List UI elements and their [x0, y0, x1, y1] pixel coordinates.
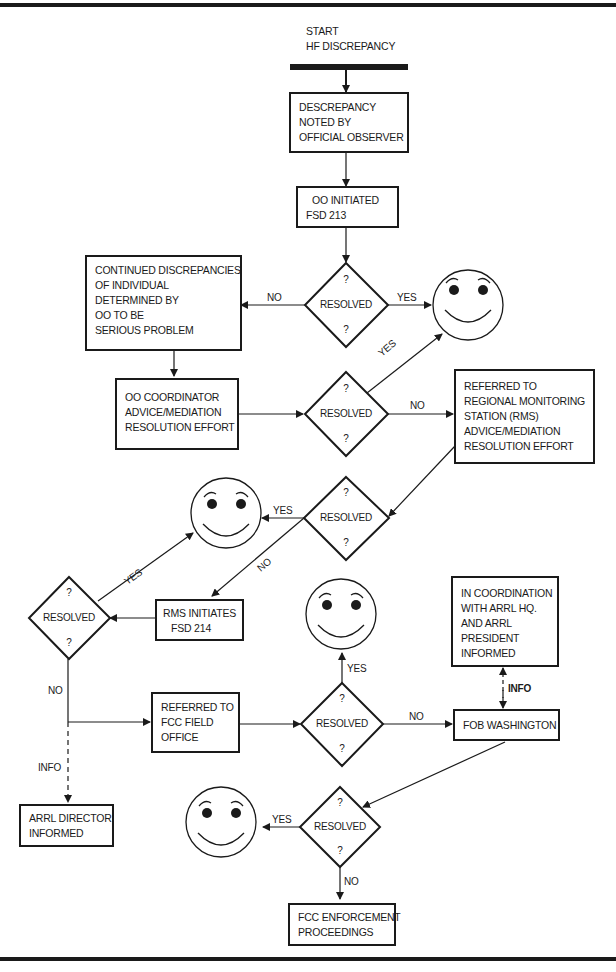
box-text: INFORMED	[461, 646, 549, 661]
decision-6-mark-top: ?	[300, 797, 380, 808]
box-text: REFERRED TO	[161, 700, 230, 715]
edge-label-yes: YES	[272, 814, 291, 825]
box-text: RESOLUTION EFFORT	[464, 439, 585, 454]
start-line-1: START	[306, 24, 395, 39]
box-text: WITH ARRL HQ.	[461, 601, 549, 616]
start-line-2: HF DISCREPANCY	[306, 39, 395, 54]
box-text: CONTINUED DISCREPANCIES	[95, 263, 232, 278]
box-oo-coordinator: OO COORDINATOR ADVICE/MEDIATION RESOLUTI…	[115, 378, 239, 450]
box-oo-initiated: OO INITIATED FSD 213	[296, 186, 399, 228]
box-text: OFFICIAL OBSERVER	[299, 130, 399, 145]
box-discrepancy-noted: DESCREPANCY NOTED BY OFFICIAL OBSERVER	[289, 92, 409, 153]
box-text: OO INITIATED	[306, 193, 389, 208]
box-text: REGIONAL MONITORING	[464, 394, 585, 409]
decision-1-label: RESOLVED	[306, 299, 386, 310]
decision-5-mark-top: ?	[302, 693, 382, 704]
box-text: NOTED BY	[299, 115, 399, 130]
box-text: FCC FIELD	[161, 715, 230, 730]
decision-4-label: RESOLVED	[29, 612, 109, 623]
edge-label-yes: YES	[273, 505, 292, 516]
box-text: SERIOUS PROBLEM	[95, 323, 232, 338]
edge-label-no: NO	[344, 876, 359, 887]
smiley-face-icon-1	[433, 270, 503, 340]
box-text: STATION (RMS)	[464, 409, 585, 424]
box-referred-rms: REFERRED TO REGIONAL MONITORING STATION …	[454, 369, 595, 464]
smiley-face-icon-3	[306, 579, 376, 649]
box-text: FOB WASHINGTON	[463, 718, 550, 733]
edge-label-info: INFO	[508, 683, 531, 694]
box-fcc-field-office: REFERRED TO FCC FIELD OFFICE	[151, 692, 240, 753]
smiley-face-icon-2	[191, 478, 261, 548]
decision-3-mark-top: ?	[306, 487, 386, 498]
box-text: OO TO BE	[95, 308, 232, 323]
box-text: REFERRED TO	[464, 379, 585, 394]
box-text: FCC ENFORCEMENT	[298, 910, 386, 925]
box-text: PRESIDENT	[461, 631, 549, 646]
decision-6-label: RESOLVED	[300, 821, 380, 832]
edge-label-yes: YES	[347, 663, 366, 674]
decision-6-mark-bottom: ?	[300, 845, 380, 856]
box-text: IN COORDINATION	[461, 586, 549, 601]
box-arrl-director: ARRL DIRECTOR INFORMED	[19, 804, 114, 847]
decision-2-mark-bottom: ?	[306, 433, 386, 444]
box-text: PROCEEDINGS	[298, 925, 386, 940]
decision-3-label: RESOLVED	[306, 512, 386, 523]
edge-label-no: NO	[48, 685, 63, 696]
decision-5-label: RESOLVED	[302, 718, 382, 729]
box-text: RMS INITIATES	[163, 606, 236, 621]
box-text: DETERMINED BY	[95, 293, 232, 308]
box-text: DESCREPANCY	[299, 100, 399, 115]
edge-label-info: INFO	[38, 762, 61, 773]
decision-2-mark-top: ?	[306, 383, 386, 394]
decision-1-mark-top: ?	[306, 274, 386, 285]
edge-label-no: NO	[409, 711, 424, 722]
decision-5-mark-bottom: ?	[302, 743, 382, 754]
box-text: ARRL DIRECTOR	[29, 811, 104, 826]
box-rms-initiates: RMS INITIATES FSD 214	[155, 599, 244, 641]
box-text: INFORMED	[29, 826, 104, 841]
box-text: ADVICE/MEDIATION	[464, 424, 585, 439]
decision-1-mark-bottom: ?	[306, 324, 386, 335]
start-label: START HF DISCREPANCY	[306, 24, 395, 54]
box-continued-discrepancies: CONTINUED DISCREPANCIES OF INDIVIDUAL DE…	[85, 255, 242, 351]
edge-label-yes: YES	[397, 292, 416, 303]
decision-4-mark-bottom: ?	[29, 637, 109, 648]
edge-label-no: NO	[410, 400, 425, 411]
box-fob-washington: FOB WASHINGTON	[453, 709, 560, 741]
box-text: OFFICE	[161, 730, 230, 745]
box-text: OF INDIVIDUAL	[95, 278, 232, 293]
box-text: AND ARRL	[461, 616, 549, 631]
smiley-face-icon-4	[186, 787, 256, 857]
box-text: ADVICE/MEDIATION	[125, 405, 229, 420]
box-arrl-hq-coordination: IN COORDINATION WITH ARRL HQ. AND ARRL P…	[451, 576, 559, 667]
edge-label-no: NO	[267, 292, 282, 303]
box-fcc-enforcement: FCC ENFORCEMENT PROCEEDINGS	[288, 903, 396, 946]
decision-3-mark-bottom: ?	[306, 537, 386, 548]
start-bar	[290, 64, 408, 70]
flowchart: START HF DISCREPANCY DESCREPANCY NOTED B…	[0, 0, 616, 972]
decision-2-label: RESOLVED	[306, 408, 386, 419]
box-text: OO COORDINATOR	[125, 390, 229, 405]
box-text: FSD 214	[163, 621, 236, 636]
box-text: FSD 213	[306, 208, 389, 223]
decision-4-mark-top: ?	[29, 587, 109, 598]
box-text: RESOLUTION EFFORT	[125, 420, 229, 435]
